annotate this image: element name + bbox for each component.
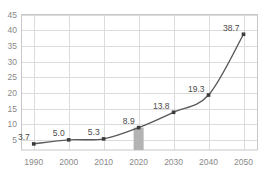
data-point-label: 5.0 [53, 128, 65, 138]
y-tick-label: 25 [8, 72, 18, 82]
data-point-marker [172, 110, 176, 114]
highlight-bar-2020 [134, 128, 144, 150]
y-tick-label: 30 [8, 57, 18, 67]
x-tick-label: 2020 [129, 157, 148, 167]
x-tick-label: 2040 [199, 157, 218, 167]
data-point-marker [67, 138, 71, 142]
chart-container: 51015202530354045 1990200020102020203020… [0, 0, 267, 173]
y-tick-label: 20 [8, 88, 18, 98]
data-point-label: 3.7 [18, 132, 30, 142]
y-tick-label: 40 [8, 25, 18, 35]
x-tick-label: 1990 [24, 157, 43, 167]
data-point-marker [32, 142, 36, 146]
data-point-label: 5.3 [88, 127, 100, 137]
line-chart: 51015202530354045 1990200020102020203020… [0, 0, 267, 173]
data-point-marker [137, 126, 141, 130]
y-axis-tick-labels: 51015202530354045 [8, 10, 18, 145]
data-point-label: 13.8 [153, 101, 170, 111]
y-tick-label: 15 [8, 104, 18, 114]
y-tick-label: 35 [8, 41, 18, 51]
y-tick-label: 10 [8, 119, 18, 129]
x-tick-label: 2000 [59, 157, 78, 167]
y-tick-label: 5 [12, 135, 17, 145]
data-point-marker [242, 32, 246, 36]
data-point-marker [207, 93, 211, 97]
data-point-label: 19.3 [188, 84, 205, 94]
x-tick-label: 2010 [94, 157, 113, 167]
x-tick-label: 2030 [164, 157, 183, 167]
x-tick-label: 2050 [234, 157, 253, 167]
data-point-label: 38.7 [223, 23, 240, 33]
data-point-marker [102, 137, 106, 141]
y-tick-label: 45 [8, 10, 18, 20]
data-point-label: 8.9 [123, 116, 135, 126]
